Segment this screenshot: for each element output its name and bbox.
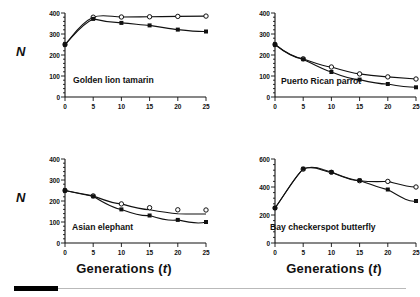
x-tick-label: 5 <box>301 249 305 256</box>
y-tick-label: 400 <box>259 10 270 17</box>
x-axis-tick-labels: 0 5 10 15 20 25 <box>63 249 210 256</box>
x-tick-label: 15 <box>356 103 364 110</box>
x-axis-title-right: Generations (t) <box>248 261 420 276</box>
y-tick-label: 200 <box>259 52 270 59</box>
x-axis-ticks <box>65 97 206 101</box>
x-axis-title-right-var: t <box>373 261 378 276</box>
panel-asian-elephant: 400 300 200 100 0 <box>38 152 210 256</box>
y-axis-tick-labels: 400 300 200 100 0 <box>49 10 60 101</box>
x-tick-label: 5 <box>301 103 305 110</box>
x-tick-label: 20 <box>384 249 392 256</box>
series-filled-square <box>63 17 208 47</box>
y-tick-label: 200 <box>49 198 60 205</box>
y-tick-label: 300 <box>49 177 60 184</box>
x-tick-label: 5 <box>91 249 95 256</box>
series-filled-square <box>273 167 418 210</box>
panel-title-asian-elephant: Asian elephant <box>72 222 133 232</box>
y-axis-tick-labels: 600 400 200 0 <box>259 156 270 247</box>
x-tick-label: 25 <box>202 103 210 110</box>
x-tick-label: 25 <box>202 249 210 256</box>
x-tick-label: 10 <box>328 103 336 110</box>
x-tick-label: 10 <box>118 249 126 256</box>
x-tick-label: 20 <box>384 103 392 110</box>
y-tick-label: 300 <box>49 31 60 38</box>
y-tick-label: 400 <box>49 10 60 17</box>
x-axis-tick-labels: 0 5 10 15 20 25 <box>63 103 210 110</box>
x-tick-label: 25 <box>412 249 420 256</box>
series-open-circle <box>273 167 418 210</box>
chart-asian-elephant: 400 300 200 100 0 <box>38 152 210 256</box>
y-axis-tick-labels: 400 300 200 100 0 <box>49 156 60 247</box>
x-tick-label: 10 <box>118 103 126 110</box>
y-tick-label: 400 <box>259 184 270 191</box>
series-open-circle <box>63 188 208 214</box>
x-tick-label: 0 <box>273 249 277 256</box>
y-axis-ticks <box>271 13 275 97</box>
x-tick-label: 15 <box>146 103 154 110</box>
x-tick-label: 20 <box>174 249 182 256</box>
y-axis-label-n-top: N <box>16 45 25 58</box>
y-tick-label: 0 <box>56 94 60 101</box>
x-axis-title-left: Generations (t) <box>38 261 210 276</box>
y-tick-label: 100 <box>49 73 60 80</box>
panel-puerto-rican-parrot: 400 300 200 100 0 <box>248 6 420 110</box>
panel-title-bay-checkerspot-butterfly: Bay checkerspot butterfly <box>270 222 376 232</box>
footer-rule <box>14 286 406 289</box>
x-axis-title-left-var: t <box>163 261 168 276</box>
x-tick-label: 0 <box>63 103 67 110</box>
x-tick-label: 15 <box>146 249 154 256</box>
y-axis-ticks <box>61 159 65 243</box>
x-tick-label: 0 <box>273 103 277 110</box>
y-tick-label: 100 <box>259 73 270 80</box>
y-tick-label: 0 <box>56 240 60 247</box>
chart-bay-checkerspot-butterfly: 600 400 200 0 <box>248 152 420 256</box>
chart-puerto-rican-parrot: 400 300 200 100 0 <box>248 6 420 110</box>
footer-rule-gray-segment <box>58 288 406 289</box>
y-tick-label: 400 <box>49 156 60 163</box>
y-tick-label: 300 <box>259 31 270 38</box>
panel-bay-checkerspot-butterfly: 600 400 200 0 <box>248 152 420 256</box>
x-tick-label: 25 <box>412 103 420 110</box>
x-tick-label: 5 <box>91 103 95 110</box>
y-tick-label: 200 <box>259 212 270 219</box>
x-tick-label: 15 <box>356 249 364 256</box>
panel-title-golden-lion-tamarin: Golden lion tamarin <box>73 75 154 85</box>
y-axis-tick-labels: 400 300 200 100 0 <box>259 10 270 101</box>
y-axis-ticks <box>61 13 65 97</box>
y-tick-label: 0 <box>266 94 270 101</box>
x-axis-title-left-text: Generations <box>76 261 154 276</box>
y-axis-label-n-bottom: N <box>16 191 25 204</box>
x-axis-title-right-text: Generations <box>286 261 364 276</box>
y-tick-label: 0 <box>266 240 270 247</box>
y-tick-label: 600 <box>259 156 270 163</box>
y-tick-label: 200 <box>49 52 60 59</box>
x-axis-ticks <box>275 243 416 247</box>
x-axis-tick-labels: 0 5 10 15 20 25 <box>273 103 420 110</box>
panel-golden-lion-tamarin: 400 300 200 100 0 <box>38 6 210 110</box>
x-tick-label: 10 <box>328 249 336 256</box>
x-axis-ticks <box>65 243 206 247</box>
x-axis-tick-labels: 0 5 10 15 20 25 <box>273 249 420 256</box>
panel-title-puerto-rican-parrot: Puerto Rican parrot <box>281 76 361 86</box>
y-tick-label: 100 <box>49 219 60 226</box>
chart-golden-lion-tamarin: 400 300 200 100 0 <box>38 6 210 110</box>
footer-rule-black-segment <box>14 286 58 291</box>
x-axis-ticks <box>275 97 416 101</box>
x-tick-label: 0 <box>63 249 67 256</box>
x-tick-label: 20 <box>174 103 182 110</box>
